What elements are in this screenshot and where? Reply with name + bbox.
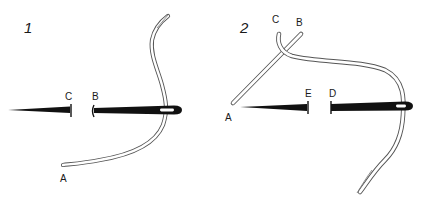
panel-2: 2 C B A E D	[225, 14, 413, 193]
stitch-diagram: 1 C B A 2	[0, 0, 431, 201]
panel-2-point-c: C	[272, 14, 279, 25]
panel-2-needle-body	[331, 101, 413, 114]
needle-eye	[160, 109, 174, 112]
panel-2-number: 2	[239, 19, 249, 36]
panel-1-needle-body	[93, 105, 183, 117]
panel-2-thread-ab	[233, 34, 301, 103]
panel-2-thread-main	[278, 34, 403, 193]
panel-1-thread	[63, 15, 168, 165]
panel-2-point-a: A	[225, 112, 232, 123]
panel-2-point-b: B	[296, 17, 303, 28]
panel-1-point-a: A	[60, 173, 67, 184]
panel-1-needle-tip	[8, 104, 71, 117]
panel-2-point-e: E	[305, 88, 312, 99]
panel-1-number: 1	[24, 19, 32, 36]
panel-1-point-b: B	[92, 91, 99, 102]
panel-1: 1 C B A	[8, 15, 182, 184]
panel-2-needle-tip	[240, 101, 308, 114]
panel-2-point-d: D	[329, 88, 336, 99]
panel-1-point-c: C	[65, 91, 72, 102]
needle-eye	[396, 105, 406, 108]
